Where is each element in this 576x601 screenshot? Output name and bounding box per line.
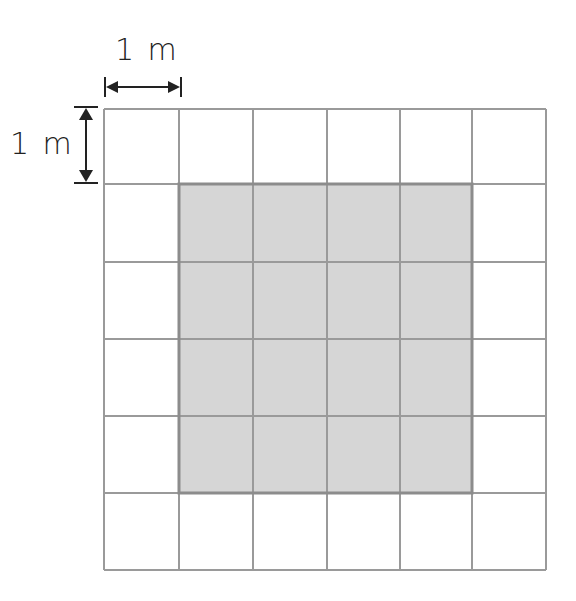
grid-diagram	[0, 0, 576, 601]
vertical-dimension-arrow	[74, 107, 98, 183]
grid-lines	[104, 109, 546, 570]
horizontal-dimension-arrow	[105, 77, 181, 97]
